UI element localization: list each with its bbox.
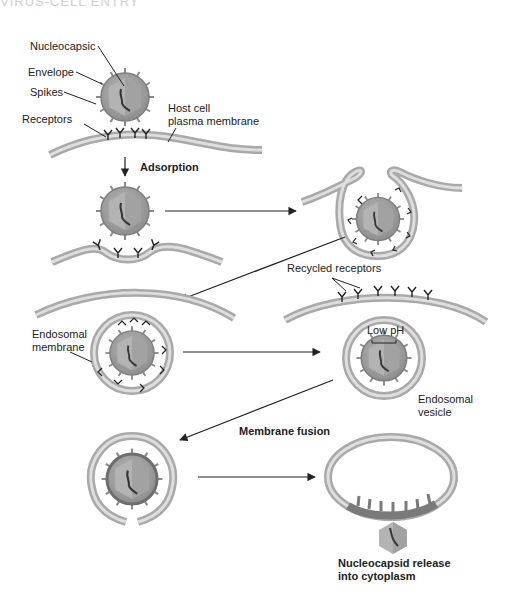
label-endosomal-membrane-1: Endosomal <box>32 328 87 341</box>
label-host-cell-1: Host cell <box>168 102 210 115</box>
label-receptors: Receptors <box>22 113 72 126</box>
step-adsorption <box>52 182 296 262</box>
step-nucleocapsid-release <box>328 437 454 554</box>
host-membrane <box>50 134 262 155</box>
label-endosomal-vesicle-2: vesicle <box>418 406 452 419</box>
label-envelope: Envelope <box>28 66 74 79</box>
step-endocytosis <box>180 170 462 300</box>
label-endosomal-membrane-2: membrane <box>32 341 85 354</box>
step-membrane-fusion <box>91 436 315 522</box>
label-endosomal-vesicle-1: Endosomal <box>418 393 473 406</box>
label-recycled-receptors: Recycled receptors <box>287 262 381 275</box>
label-adsorption: Adsorption <box>140 161 199 174</box>
label-release-1: Nucleocapsid release <box>338 557 451 570</box>
step-attachment <box>50 46 262 176</box>
label-nucleocapsid: Nucleocapsic <box>30 40 95 53</box>
label-spikes: Spikes <box>30 86 63 99</box>
label-membrane-fusion: Membrane fusion <box>239 425 330 438</box>
label-release-2: into cytoplasm <box>338 570 416 583</box>
label-host-cell-2: plasma membrane <box>168 115 259 128</box>
virus-entry-diagram <box>0 0 508 606</box>
label-low-ph: Low pH <box>367 324 404 337</box>
